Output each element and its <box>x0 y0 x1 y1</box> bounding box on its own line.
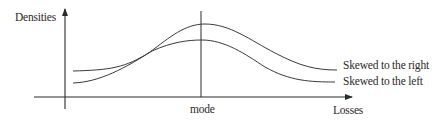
y-axis-label: Densities <box>15 12 56 24</box>
curve-skewed-left <box>73 40 335 83</box>
density-diagram: Densities mode Losses Skewed to the righ… <box>0 0 448 124</box>
legend-skewed-left: Skewed to the left <box>343 76 423 88</box>
x-axis-label: Losses <box>333 105 363 117</box>
curve-skewed-right <box>73 24 337 71</box>
mode-label: mode <box>190 104 215 116</box>
legend-skewed-right: Skewed to the right <box>343 60 429 72</box>
